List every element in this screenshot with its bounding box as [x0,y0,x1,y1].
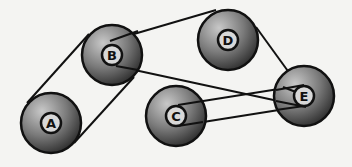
belt-a-b-lower [74,77,134,143]
pulley-e: E [274,66,334,126]
pulley-label: B [107,48,117,63]
pulley-diagram: A B C D E [0,0,352,167]
pulley-a: A [21,93,81,153]
pulley-c: C [146,86,206,146]
pulley-b: B [82,25,142,85]
pulley-label: A [46,116,56,131]
pulley-label: C [171,109,181,124]
pulley-label: D [223,33,234,48]
pulley-d: D [198,10,258,70]
pulley-label: E [300,89,309,104]
